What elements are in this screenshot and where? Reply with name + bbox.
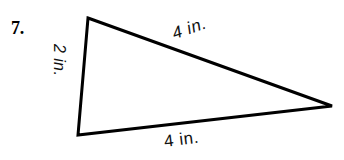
side-length-label-left: 2 in. (51, 44, 67, 76)
figure-page: 7. 2 in. 4 in. 4 in. (0, 0, 344, 160)
triangle-outline-icon (78, 18, 332, 135)
side-length-label-bottom: 4 in. (163, 129, 200, 150)
